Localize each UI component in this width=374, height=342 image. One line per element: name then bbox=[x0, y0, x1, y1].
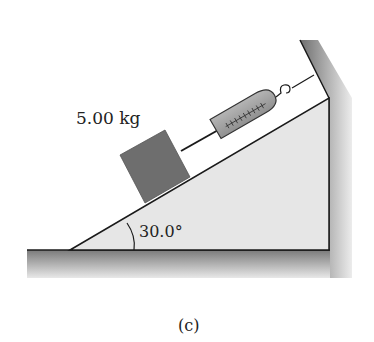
angle-label: 30.0° bbox=[139, 222, 183, 241]
string-lower bbox=[181, 129, 220, 151]
figure-caption: (c) bbox=[178, 316, 199, 335]
hook-icon bbox=[276, 85, 290, 97]
mass-label: 5.00 kg bbox=[76, 108, 140, 128]
ground bbox=[27, 250, 345, 278]
incline-diagram bbox=[0, 0, 374, 342]
string-upper bbox=[292, 75, 314, 88]
spring-scale bbox=[210, 85, 280, 138]
